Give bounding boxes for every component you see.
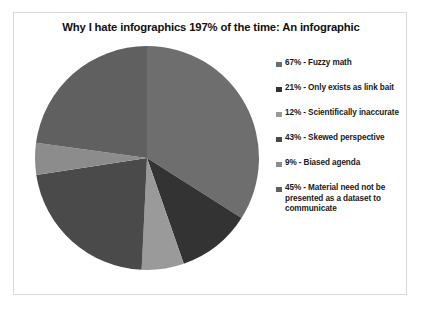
legend-item-label: 12% - Scientifically inaccurate [285, 108, 399, 119]
chart-legend: 67% - Fuzzy math21% - Only exists as lin… [276, 58, 408, 229]
legend-swatch [276, 87, 282, 93]
legend-item-label: 67% - Fuzzy math [285, 58, 352, 69]
legend-item-label: 21% - Only exists as link bait [285, 83, 394, 94]
pie-svg [34, 45, 260, 271]
legend-item-label: 45% - Material need not be presented as … [285, 183, 408, 215]
legend-item[interactable]: 45% - Material need not be presented as … [276, 183, 408, 215]
chart-frame: Why I hate infographics 197% of the time… [13, 12, 407, 295]
legend-item[interactable]: 12% - Scientifically inaccurate [276, 108, 408, 119]
legend-item[interactable]: 9% - Biased agenda [276, 158, 408, 169]
legend-swatch [276, 162, 282, 168]
legend-item-label: 9% - Biased agenda [285, 158, 360, 169]
legend-swatch [276, 112, 282, 118]
legend-item[interactable]: 67% - Fuzzy math [276, 58, 408, 69]
pie-slice[interactable] [36, 158, 147, 270]
legend-item[interactable]: 43% - Skewed perspective [276, 133, 408, 144]
chart-title: Why I hate infographics 197% of the time… [14, 21, 408, 33]
pie-chart [34, 45, 260, 271]
legend-swatch [276, 62, 282, 68]
legend-swatch [276, 187, 282, 193]
legend-item[interactable]: 21% - Only exists as link bait [276, 83, 408, 94]
legend-item-label: 43% - Skewed perspective [285, 133, 385, 144]
legend-swatch [276, 137, 282, 143]
pie-slice[interactable] [36, 46, 147, 158]
